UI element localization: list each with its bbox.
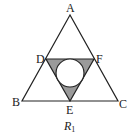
label-c: C [119,97,127,111]
figure-caption: R1 [63,119,75,134]
inscribed-circle [56,59,84,87]
geometry-figure: A B C D E F R1 [0,0,132,137]
label-f: F [96,52,103,66]
label-d: D [36,52,45,66]
caption-subscript: 1 [71,125,75,134]
label-b: B [12,95,20,109]
label-a: A [66,1,75,15]
label-e: E [66,103,73,117]
